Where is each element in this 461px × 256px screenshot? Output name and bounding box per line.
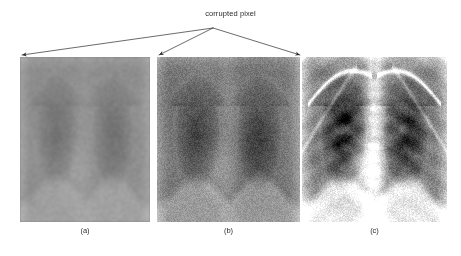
- xray-image-b: [157, 57, 300, 222]
- xray-image-c: [302, 57, 447, 222]
- panel-caption-c: (c): [302, 226, 447, 235]
- panel-caption-b: (b): [157, 226, 300, 235]
- panel-caption-a: (a): [20, 226, 150, 235]
- xray-panel-a: [20, 57, 150, 222]
- xray-panel-c: [302, 57, 447, 222]
- xray-image-a: [20, 57, 150, 222]
- xray-panel-b: [157, 57, 300, 222]
